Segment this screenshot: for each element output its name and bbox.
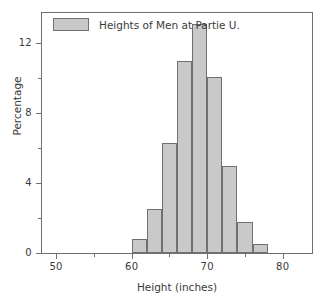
y-axis-tick-label: 4 bbox=[12, 177, 32, 188]
x-axis-tick bbox=[132, 254, 133, 259]
x-axis-title: Height (inches) bbox=[41, 281, 313, 293]
x-axis-line bbox=[41, 253, 313, 254]
x-axis-tick-label: 60 bbox=[112, 261, 152, 272]
x-axis-tick bbox=[207, 254, 208, 259]
x-axis-tick-label: 80 bbox=[263, 261, 303, 272]
x-axis-minor-tick bbox=[245, 254, 246, 257]
plot-area-frame bbox=[41, 12, 313, 254]
y-axis-title: Percentage bbox=[11, 56, 23, 156]
y-axis-tick-label: 0 bbox=[12, 247, 32, 258]
legend-swatch-icon bbox=[53, 18, 89, 31]
x-axis-tick bbox=[283, 254, 284, 259]
y-axis-tick-label: 12 bbox=[12, 37, 32, 48]
x-axis-tick-label: 50 bbox=[36, 261, 76, 272]
x-axis-tick bbox=[56, 254, 57, 259]
histogram-figure: 5060708004812 Height (inches) Percentage… bbox=[0, 0, 334, 306]
x-axis-minor-tick bbox=[94, 254, 95, 257]
legend-label: Heights of Men at Partie U. bbox=[99, 19, 240, 31]
y-axis-line bbox=[41, 12, 42, 254]
x-axis-tick-label: 70 bbox=[187, 261, 227, 272]
chart-legend: Heights of Men at Partie U. bbox=[53, 18, 240, 31]
x-axis-minor-tick bbox=[169, 254, 170, 257]
